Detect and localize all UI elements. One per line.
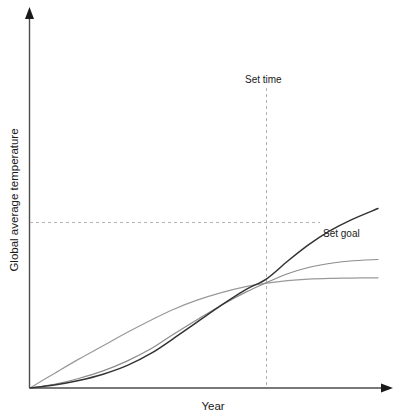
guide-lines-group	[30, 88, 320, 388]
axes-group	[25, 7, 393, 393]
series-path-early-action-goal	[30, 278, 378, 388]
y-axis-arrowhead	[25, 7, 34, 19]
y-axis-label: Global average temperature	[8, 128, 20, 271]
set-time-label: Set time	[245, 74, 282, 85]
chart-container: Set time Set goal Year Global average te…	[0, 0, 400, 420]
x-axis-label: Year	[201, 400, 224, 412]
set-goal-label: Set goal	[323, 228, 360, 239]
chart-canvas: Set time Set goal Year Global average te…	[0, 0, 400, 420]
x-axis-arrowhead	[381, 384, 393, 393]
